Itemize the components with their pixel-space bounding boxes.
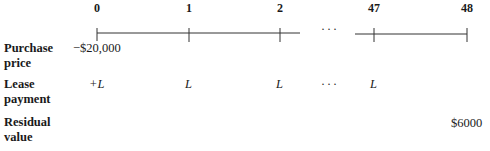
lease-payment-47: L [370, 77, 377, 92]
period-label-48: 48 [461, 1, 473, 16]
row-label-line1: Lease [4, 77, 51, 92]
row-label-line2: payment [4, 92, 51, 107]
lease-payment-0: +L [89, 77, 104, 92]
timeline-gap-ellipsis: ··· [321, 22, 339, 37]
timeline-axis [0, 0, 490, 151]
row-label-line2: price [4, 56, 53, 71]
lease-payment-2: L [276, 77, 283, 92]
row-label-line1: Residual [4, 115, 51, 130]
row-label-lease-payment: Lease payment [4, 77, 51, 107]
lease-payment-ellipsis: ··· [321, 77, 339, 92]
residual-value-48: $6000 [451, 116, 482, 131]
period-label-2: 2 [277, 1, 283, 16]
lease-payment-1: L [185, 77, 192, 92]
row-label-residual-value: Residual value [4, 115, 51, 145]
period-label-47: 47 [368, 1, 380, 16]
row-label-line1: Purchase [4, 41, 53, 56]
row-label-line2: value [4, 130, 51, 145]
row-label-purchase-price: Purchase price [4, 41, 53, 71]
purchase-price-value: −$20,000 [73, 41, 121, 56]
period-label-1: 1 [186, 1, 192, 16]
period-label-0: 0 [94, 1, 100, 16]
